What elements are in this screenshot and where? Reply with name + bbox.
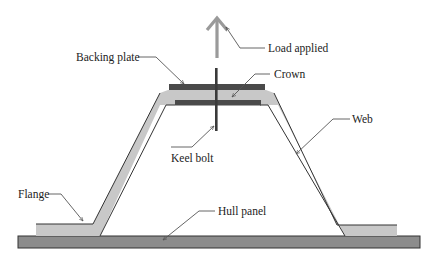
stiffener-outline-right — [274, 93, 397, 225]
label-crown: Crown — [274, 68, 306, 80]
stiffener-outline-left — [36, 93, 160, 224]
load-arrow-icon — [207, 18, 227, 58]
label-web: Web — [352, 113, 373, 125]
leader-flange — [48, 194, 83, 221]
hull-panel — [18, 236, 420, 248]
stiffener-outline-left-inner — [100, 105, 175, 236]
keel-bolt — [215, 68, 218, 131]
diagram-canvas: Load applied Backing plate Crown Keel bo… — [0, 0, 436, 262]
stiffener-outline-right-inner — [260, 105, 345, 236]
label-backing-plate: Backing plate — [76, 51, 140, 64]
leader-web — [296, 119, 350, 154]
leader-load-applied — [226, 27, 265, 48]
leader-backing-plate — [138, 57, 184, 84]
label-flange: Flange — [18, 188, 49, 201]
label-load-applied: Load applied — [268, 42, 329, 55]
label-keel-bolt: Keel bolt — [171, 152, 214, 164]
label-hull-panel: Hull panel — [218, 205, 266, 218]
leader-keel-bolt — [171, 126, 214, 147]
inner-plate — [175, 100, 261, 106]
